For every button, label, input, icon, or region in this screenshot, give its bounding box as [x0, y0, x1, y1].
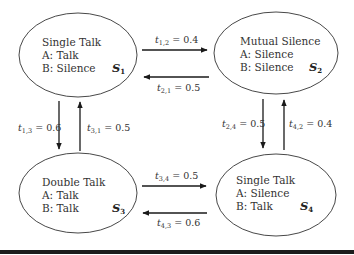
state-s4-title: Single Talk — [236, 174, 296, 186]
label-t12: t1,2 = 0.4 — [155, 34, 198, 47]
label-t34: t3,4 = 0.5 — [155, 170, 198, 183]
label-t21: t2,1 = 0.5 — [157, 82, 200, 95]
label-t42: t4,2 = 0.4 — [289, 118, 332, 131]
state-s3-title: Double Talk — [42, 176, 106, 188]
state-s3-a: A: Talk — [41, 189, 79, 201]
label-t43: t4,3 = 0.6 — [157, 217, 200, 230]
state-s3: Double Talk A: Talk B: Talk S3 — [19, 153, 137, 233]
state-s2-a: A: Silence — [239, 48, 293, 60]
label-t24: t2,4 = 0.5 — [222, 118, 265, 131]
bottom-rule — [0, 250, 354, 254]
state-s3-b: B: Talk — [42, 202, 79, 214]
state-s2-title: Mutual Silence — [240, 35, 320, 47]
state-s1-a: A: Talk — [41, 49, 79, 61]
state-s1-b: B: Silence — [42, 62, 96, 74]
state-diagram: Single Talk A: Talk B: Silence S1 Mutual… — [0, 0, 354, 255]
state-s4-a: A: Silence — [235, 187, 289, 199]
label-t13: t1,3 = 0.6 — [18, 122, 61, 135]
label-t31: t3,1 = 0.5 — [87, 122, 130, 135]
state-s4: Single Talk A: Silence B: Talk S4 — [216, 154, 336, 236]
state-s1: Single Talk A: Talk B: Silence S1 — [19, 13, 137, 97]
state-s2-b: B: Silence — [240, 61, 294, 73]
state-s4-b: B: Talk — [236, 200, 273, 212]
state-s1-title: Single Talk — [42, 36, 102, 48]
state-s2: Mutual Silence A: Silence B: Silence S2 — [214, 12, 338, 94]
